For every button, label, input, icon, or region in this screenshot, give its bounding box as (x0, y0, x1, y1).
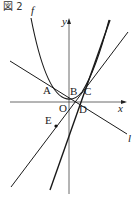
point-label-e: E (45, 115, 52, 126)
point-label-d: D (79, 104, 87, 115)
line-label-l: l (128, 133, 131, 144)
point-label-a: A (43, 85, 51, 96)
origin-label: O (59, 103, 67, 114)
point-e-marker (54, 124, 57, 127)
diagram-canvas (0, 0, 137, 197)
point-label-c: C (84, 86, 91, 97)
y-axis-label: y (62, 16, 67, 27)
figure-title: 図 2 (3, 2, 23, 12)
figure-2: 図 2 f y x O l A B C D E (0, 0, 137, 197)
x-axis-label: x (118, 103, 123, 114)
curve-label-f: f (31, 5, 34, 16)
line-l (10, 61, 127, 134)
y-axis-arrow-icon (67, 18, 71, 24)
point-label-b: B (70, 86, 77, 97)
line-ec (11, 32, 128, 187)
